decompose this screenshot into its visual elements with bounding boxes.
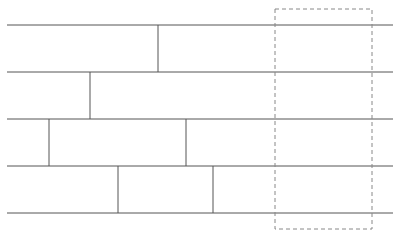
plank-diagram bbox=[0, 0, 403, 240]
